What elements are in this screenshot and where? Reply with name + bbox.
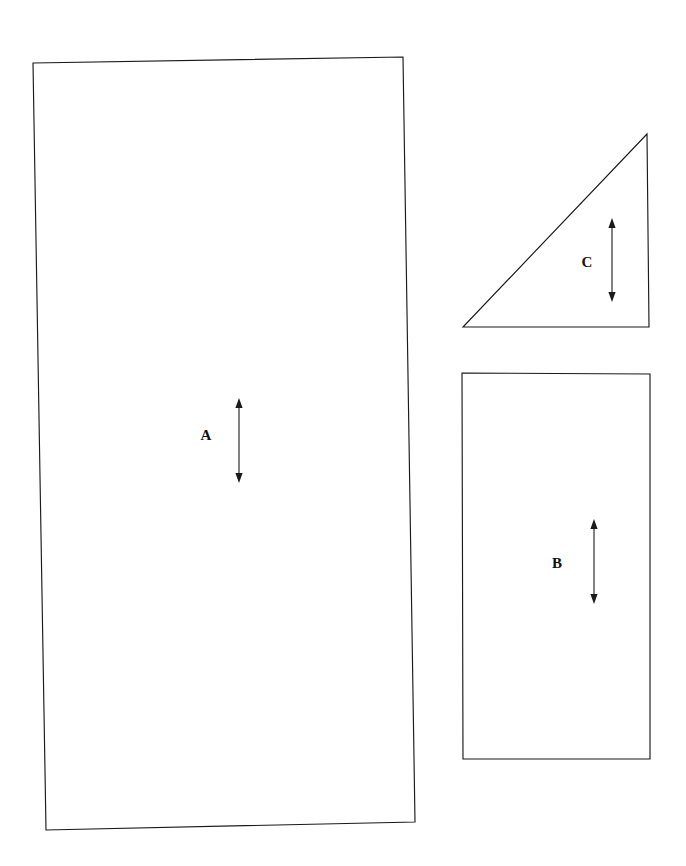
- shapes-diagram: A C B: [0, 0, 686, 866]
- shape-c-outline[interactable]: [463, 134, 649, 327]
- shape-b-label: B: [552, 555, 562, 571]
- diagram-canvas: A C B: [0, 0, 686, 866]
- shape-a-outline[interactable]: [33, 57, 415, 830]
- shape-group-c: C: [463, 134, 649, 327]
- shape-group-a: A: [33, 57, 415, 830]
- shape-c-label: C: [581, 254, 592, 270]
- shape-a-label: A: [200, 427, 211, 443]
- shape-group-b: B: [462, 373, 650, 759]
